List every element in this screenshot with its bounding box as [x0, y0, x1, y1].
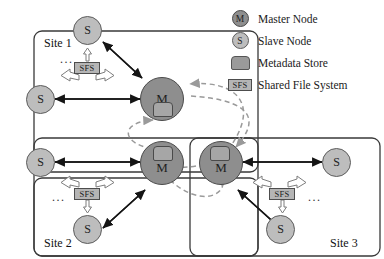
site-2-slave-node-bottom[interactable]: S	[73, 215, 102, 244]
legend-item-slave-node: S Slave Node	[228, 30, 384, 51]
site-2-master-node[interactable]: M	[140, 141, 184, 185]
shared-file-system-icon: SFS	[228, 79, 252, 91]
site-3-ellipsis: ...	[308, 190, 322, 205]
site-3-slave-node-bottom[interactable]: S	[266, 215, 295, 244]
site-3-metadata-store	[210, 146, 230, 161]
site-2-metadata-store	[153, 146, 173, 161]
slave-node-icon-label: S	[232, 32, 249, 49]
legend-item-master-node: M Master Node	[228, 8, 384, 29]
legend: M Master Node S Slave Node Metadata Stor…	[228, 8, 384, 96]
site-1-ellipsis: ...	[60, 52, 74, 67]
site-1-slave-node-top[interactable]: S	[73, 16, 102, 45]
legend-label-slave-node: Slave Node	[258, 35, 311, 47]
site-2-slave-node-left[interactable]: S	[26, 148, 55, 177]
site-3-master-label: M	[215, 160, 227, 176]
site-3-slave-node-right[interactable]: S	[322, 148, 351, 177]
master-node-icon: M	[228, 10, 252, 27]
slave-node-icon: S	[228, 32, 252, 49]
site-1-label: Site 1	[44, 36, 72, 51]
legend-item-metadata-store: Metadata Store	[228, 52, 384, 73]
master-node-icon-label: M	[232, 10, 249, 27]
legend-label-metadata-store: Metadata Store	[258, 57, 328, 69]
legend-label-shared-file-system: Shared File System	[258, 79, 347, 91]
site-1-master-node[interactable]: M	[140, 77, 184, 121]
site-3-label: Site 3	[330, 236, 358, 251]
site-1-slave-node-left[interactable]: S	[26, 85, 55, 114]
site-3-sfs-box[interactable]: SFS	[269, 188, 295, 200]
site-2-label: Site 2	[44, 236, 72, 251]
site-2-sfs-box[interactable]: SFS	[74, 188, 100, 200]
sfs-icon-label: SFS	[228, 79, 252, 91]
legend-label-master-node: Master Node	[258, 13, 318, 25]
site-1-metadata-store	[153, 102, 173, 117]
site-2-ellipsis: ...	[52, 190, 66, 205]
legend-item-shared-file-system: SFS Shared File System	[228, 74, 384, 95]
site-1-sfs-box[interactable]: SFS	[74, 62, 100, 74]
site-3-master-node[interactable]: M	[199, 141, 243, 185]
diagram-canvas: Site 1 ... S S M SFS Site 2 ... S S M SF…	[0, 0, 384, 259]
site-2-master-label: M	[156, 160, 168, 176]
metadata-store-icon	[228, 56, 252, 70]
